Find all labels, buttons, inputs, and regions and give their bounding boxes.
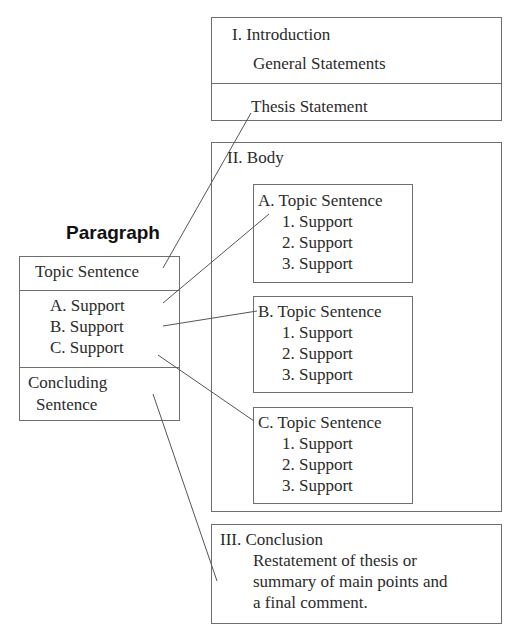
body-a-support-2: 2. Support xyxy=(282,232,353,253)
body-topic-c: C. Topic Sentence xyxy=(258,412,382,433)
support-c: C. Support xyxy=(50,337,124,358)
conclusion-heading: III. Conclusion xyxy=(220,529,323,550)
body-b-support-2: 2. Support xyxy=(282,343,353,364)
body-topic-a: A. Topic Sentence xyxy=(258,190,383,211)
thesis-statement: Thesis Statement xyxy=(251,96,368,117)
support-b: B. Support xyxy=(50,316,124,337)
conclusion-line-3: a final comment. xyxy=(253,592,368,613)
paragraph-topic-sentence: Topic Sentence xyxy=(35,261,139,282)
body-c-support-1: 1. Support xyxy=(282,433,353,454)
introduction-divider xyxy=(211,83,502,84)
body-b-support-3: 3. Support xyxy=(282,364,353,385)
conclusion-line-1: Restatement of thesis or xyxy=(253,550,417,571)
paragraph-divider-2 xyxy=(19,367,180,368)
body-heading: II. Body xyxy=(227,147,284,168)
connector-concluding-to-conclusion xyxy=(153,394,217,581)
paragraph-title: Paragraph xyxy=(66,222,160,244)
conclusion-line-2: summary of main points and xyxy=(253,571,448,592)
concluding-sentence-line-1: Concluding xyxy=(28,372,107,393)
general-statements: General Statements xyxy=(253,53,386,74)
body-a-support-3: 3. Support xyxy=(282,253,353,274)
body-topic-b: B. Topic Sentence xyxy=(258,301,382,322)
body-c-support-2: 2. Support xyxy=(282,454,353,475)
body-b-support-1: 1. Support xyxy=(282,322,353,343)
paragraph-divider-1 xyxy=(19,290,180,291)
introduction-heading: I. Introduction xyxy=(232,24,330,45)
body-c-support-3: 3. Support xyxy=(282,475,353,496)
body-a-support-1: 1. Support xyxy=(282,211,353,232)
concluding-sentence-line-2: Sentence xyxy=(36,394,97,415)
support-a: A. Support xyxy=(50,295,125,316)
